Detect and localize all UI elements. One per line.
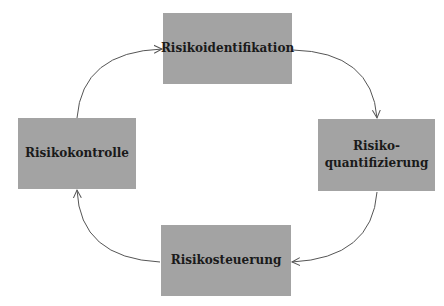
node-label: Risikosteuerung <box>171 252 282 269</box>
arrow-control-to-identification <box>77 49 162 118</box>
node-risikoidentifikation: Risikoidentifikation <box>163 13 292 84</box>
node-label: Risikokontrolle <box>25 145 129 162</box>
node-risikosteuerung: Risikosteuerung <box>161 225 291 296</box>
arrow-quantification-to-steering <box>292 192 377 262</box>
arrow-identification-to-quantification <box>293 50 377 118</box>
node-label: Risikoidentifikation <box>161 40 294 57</box>
node-risikoquantifizierung: Risiko- quantifizierung <box>318 119 435 191</box>
arrow-steering-to-control <box>77 190 160 262</box>
node-label-line1: Risiko- <box>325 138 429 155</box>
node-risikokontrolle: Risikokontrolle <box>18 118 136 189</box>
node-label-line2: quantifizierung <box>325 155 429 172</box>
